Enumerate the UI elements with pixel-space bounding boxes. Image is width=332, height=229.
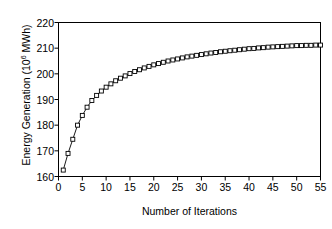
series-marker [266,45,270,49]
series-marker [309,43,313,47]
series-marker [128,72,132,76]
series-marker [271,45,275,49]
series-marker [304,43,308,47]
series-marker [190,54,194,58]
series-marker [218,50,222,54]
series-marker [257,46,261,50]
series-line [63,45,320,170]
series-marker [66,151,70,155]
chart-figure: Energy Generation (106 MWh) Number of It… [0,0,332,229]
series-marker [319,43,323,47]
series-marker [123,74,127,78]
series-marker [95,93,99,97]
series-marker [104,85,108,89]
series-marker [252,46,256,50]
series-marker [76,123,80,127]
series-marker [223,49,227,53]
series-marker [233,48,237,52]
series-marker [290,44,294,48]
series-marker [80,113,84,117]
series-marker [180,56,184,60]
series-marker [118,76,122,80]
series-marker [242,47,246,51]
series-marker [199,53,203,57]
series-marker [295,44,299,48]
series-marker [166,59,170,63]
data-series [61,43,322,172]
series-marker [90,99,94,103]
series-marker [157,62,161,66]
series-marker [214,51,218,55]
series-marker [142,66,146,70]
series-marker [176,57,180,61]
series-marker [147,64,151,68]
series-marker [85,105,89,109]
series-marker [314,43,318,47]
plot-area [0,0,332,229]
series-marker [61,168,65,172]
series-marker [114,79,118,83]
series-marker [71,137,75,141]
series-marker [185,55,189,59]
series-marker [133,70,137,74]
series-marker [152,63,156,67]
series-marker [299,44,303,48]
series-marker [238,48,242,52]
series-marker [204,52,208,56]
series-marker [171,58,175,62]
series-marker [99,89,103,93]
series-marker [285,44,289,48]
series-marker [228,49,232,53]
series-marker [261,46,265,50]
series-marker [161,60,165,64]
series-marker [280,44,284,48]
series-marker [137,68,141,72]
series-marker [276,45,280,49]
series-marker [247,47,251,51]
series-marker [209,51,213,55]
series-marker [109,82,113,86]
series-marker [195,53,199,57]
